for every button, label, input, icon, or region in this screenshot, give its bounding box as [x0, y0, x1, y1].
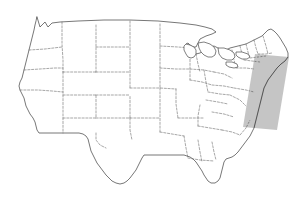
us-map-figure — [0, 0, 296, 201]
us-map-svg — [0, 0, 296, 201]
